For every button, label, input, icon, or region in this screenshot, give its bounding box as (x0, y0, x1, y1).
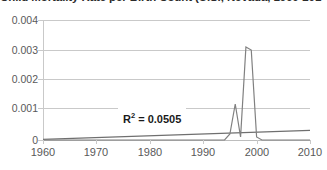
x-tick-2000 (257, 140, 258, 144)
y-axis-label-0.002: 0.002 (2, 74, 38, 84)
linear-trend-line (43, 130, 310, 139)
x-axis-label-2010: 2010 (290, 146, 327, 158)
x-axis-label-1990: 1990 (183, 146, 223, 158)
y-axis-label-0.003: 0.003 (2, 45, 38, 55)
x-tick-1960 (43, 140, 44, 144)
x-axis-label-2000: 2000 (237, 146, 277, 158)
x-axis-label-1980: 1980 (130, 146, 170, 158)
r-squared-prefix: R (123, 113, 131, 125)
chart-title: Child Mortality Rate per Birth Count (U.… (0, 0, 322, 5)
x-tick-2010 (310, 140, 311, 144)
x-axis-label-1960: 1960 (23, 146, 63, 158)
x-tick-1990 (203, 140, 204, 144)
x-tick-1980 (150, 140, 151, 144)
y-axis-label-0: 0 (2, 135, 38, 145)
y-axis-label-0.004: 0.004 (2, 15, 38, 25)
x-axis-label-1970: 1970 (76, 146, 116, 158)
x-tick-1970 (96, 140, 97, 144)
y-axis-label-0.001: 0.001 (2, 103, 38, 113)
r-squared-annotation: R2 = 0.0505 (118, 108, 186, 127)
r-squared-value: = 0.0505 (135, 113, 181, 125)
